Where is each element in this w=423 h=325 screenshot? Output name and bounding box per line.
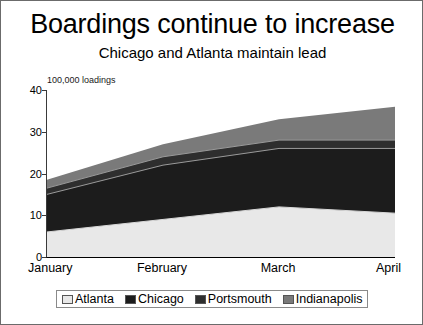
x-axis-tick-label: January (28, 261, 72, 275)
chart-plot-area (46, 90, 395, 258)
y-axis-tick-label: 10 (20, 209, 42, 221)
legend-item-portsmouth[interactable]: Portsmouth (195, 293, 272, 306)
y-axis-ticks: 010203040 (21, 90, 42, 257)
y-axis-tick-label: 30 (20, 126, 42, 138)
slide-canvas: Boardings continue to increase Chicago a… (0, 0, 423, 325)
x-axis-tick-label: February (137, 261, 187, 275)
legend-item-label: Chicago (138, 293, 184, 306)
legend-item-label: Indianapolis (296, 293, 363, 306)
x-axis-tick-label: March (261, 261, 296, 275)
legend-swatch-icon (125, 295, 136, 304)
stacked-area-series (47, 90, 395, 257)
legend-swatch-icon (283, 295, 294, 304)
legend-item-label: Portsmouth (208, 293, 272, 306)
chart-legend: AtlantaChicagoPortsmouthIndianapolis (56, 290, 368, 308)
axis-unit-note: 100,000 loadings (47, 75, 116, 85)
legend-item-indianapolis[interactable]: Indianapolis (283, 293, 363, 306)
legend-item-label: Atlanta (75, 293, 114, 306)
page-subtitle: Chicago and Atlanta maintain lead (1, 44, 423, 61)
y-axis-tick-label: 20 (20, 168, 42, 180)
legend-item-atlanta[interactable]: Atlanta (62, 293, 114, 306)
y-axis-tick-label: 40 (20, 84, 42, 96)
legend-swatch-icon (195, 295, 206, 304)
page-title: Boardings continue to increase (1, 9, 423, 39)
legend-item-chicago[interactable]: Chicago (125, 293, 184, 306)
chart-plot-wrapper: 010203040 JanuaryFebruaryMarchApril (21, 85, 401, 263)
legend-swatch-icon (62, 295, 73, 304)
x-axis-tick-label: April (376, 261, 401, 275)
